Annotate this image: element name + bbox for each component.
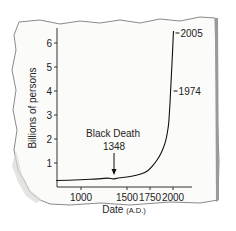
y-tick-label: 1	[46, 158, 52, 169]
y-tick-label: 2	[46, 134, 52, 145]
y-tick-label: 3	[46, 110, 52, 121]
x-tick-label: 1500	[116, 192, 139, 203]
population-chart: 1234561000150017502000Billions of person…	[0, 0, 236, 231]
paper-background	[12, 17, 219, 205]
x-tick-label: 2000	[162, 192, 185, 203]
year-1974-label: 1974	[179, 86, 202, 97]
chart-figure: 1234561000150017502000Billions of person…	[0, 0, 236, 231]
y-tick-label: 5	[46, 62, 52, 73]
x-tick-label: 1750	[139, 192, 162, 203]
black-death-year: 1348	[103, 141, 126, 152]
y-tick-label: 6	[46, 38, 52, 49]
x-axis-label: Date (A.D.)	[102, 204, 146, 215]
x-tick-label: 1000	[70, 192, 93, 203]
black-death-label: Black Death	[86, 128, 140, 139]
year-2005-label: 2005	[180, 28, 203, 39]
y-tick-label: 4	[46, 86, 52, 97]
y-axis-label: Billions of persons	[27, 67, 38, 148]
